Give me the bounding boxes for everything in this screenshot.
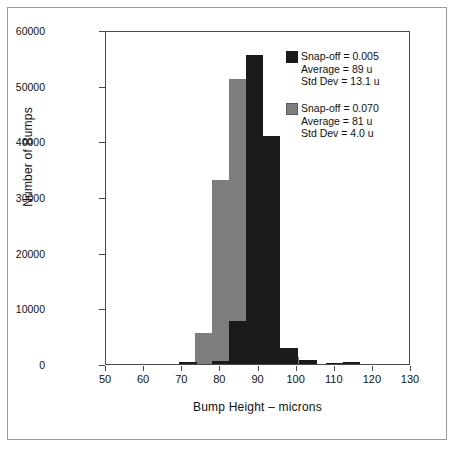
x-axis-tick-label: 110 [314,374,354,385]
legend-entry-title: Snap-off = 0.005 [301,50,379,62]
x-axis-tick-label: 130 [390,374,430,385]
legend-entry-header: Snap-off = 0.070 [286,102,406,115]
bar [280,348,297,364]
chart-figure: Number of Bumps 010000200003000040000500… [0,0,456,449]
y-axis-tick-label: 60000 [0,26,45,37]
bar [299,360,316,364]
bar [212,180,229,364]
x-axis-tick-mark [296,366,297,371]
y-axis-tick-label: 0 [0,360,45,371]
y-axis-title: Number of Bumps [21,77,35,237]
x-axis-tick-mark [372,366,373,371]
bar [263,136,280,364]
legend-entry-detail: Std Dev = 4.0 u [301,127,406,139]
chart-legend: Snap-off = 0.005Average = 89 uStd Dev = … [286,50,406,154]
bar [179,362,196,364]
legend-swatch-icon [286,51,298,63]
x-axis-tick-label: 50 [85,374,125,385]
x-axis-tick-label: 120 [352,374,392,385]
x-axis-tick-label: 60 [123,374,163,385]
x-axis-tick-label: 80 [199,374,239,385]
bar [326,363,343,364]
bar [212,361,229,364]
legend-entry: Snap-off = 0.005Average = 89 uStd Dev = … [286,50,406,88]
x-axis-tick-label: 100 [276,374,316,385]
x-axis-tick-mark [219,366,220,371]
bar [246,55,263,364]
y-axis-tick-label: 20000 [0,249,45,260]
legend-entry-header: Snap-off = 0.005 [286,50,406,63]
y-axis-tick-label: 30000 [0,193,45,204]
bar [343,362,360,364]
legend-entry-detail: Std Dev = 13.1 u [301,75,406,87]
x-axis-tick-mark [410,366,411,371]
legend-entry-detail: Average = 89 u [301,63,406,75]
x-axis-tick-mark [258,366,259,371]
x-axis-tick-label: 90 [238,374,278,385]
bar [195,333,212,364]
x-axis-tick-mark [105,366,106,371]
legend-entry-title: Snap-off = 0.070 [301,102,379,114]
x-axis-tick-mark [143,366,144,371]
legend-entry-detail: Average = 81 u [301,115,406,127]
x-axis-tick-mark [334,366,335,371]
legend-swatch-icon [286,103,298,115]
y-axis-tick-label: 50000 [0,82,45,93]
x-axis-tick-label: 70 [161,374,201,385]
x-axis-title: Bump Height – microns [105,400,410,414]
y-axis-tick-label: 10000 [0,304,45,315]
y-axis-tick-label: 40000 [0,137,45,148]
x-axis-tick-mark [181,366,182,371]
bar [229,321,246,364]
legend-entry: Snap-off = 0.070Average = 81 uStd Dev = … [286,102,406,140]
